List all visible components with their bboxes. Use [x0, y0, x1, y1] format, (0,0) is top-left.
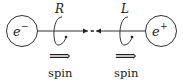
helicity-diagram: e − R e + L ⟹ ⟹ spin spin	[0, 0, 183, 82]
svg-text:e: e	[13, 24, 21, 39]
svg-text:−: −	[21, 21, 29, 31]
positron-particle: e +	[146, 16, 177, 47]
helicity-label-l: L	[120, 2, 129, 16]
svg-text:e: e	[152, 24, 160, 39]
helicity-label-r: R	[54, 2, 64, 16]
right-spin-arrow-icon: ⟹	[115, 47, 137, 65]
electron-particle: e −	[7, 16, 38, 47]
left-spin-label: spin	[48, 66, 73, 80]
positron-dot	[92, 30, 94, 32]
svg-text:+: +	[160, 21, 168, 31]
left-spin-arrow-icon: ⟹	[49, 47, 71, 65]
right-spin-label: spin	[114, 66, 139, 80]
